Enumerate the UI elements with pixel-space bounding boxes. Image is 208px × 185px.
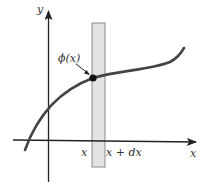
curve-point bbox=[89, 74, 96, 81]
dx-strip bbox=[92, 23, 105, 167]
diagram-canvas: y ϕ(x) x x + dx x bbox=[0, 0, 208, 185]
diagram-svg: y ϕ(x) x x + dx x bbox=[0, 0, 208, 185]
y-axis-label: y bbox=[36, 3, 44, 16]
x-axis-label: x bbox=[190, 147, 197, 160]
phi-label: ϕ(x) bbox=[58, 52, 80, 65]
strip-left-label: x bbox=[81, 146, 88, 159]
strip-right-label: x + dx bbox=[106, 146, 142, 159]
